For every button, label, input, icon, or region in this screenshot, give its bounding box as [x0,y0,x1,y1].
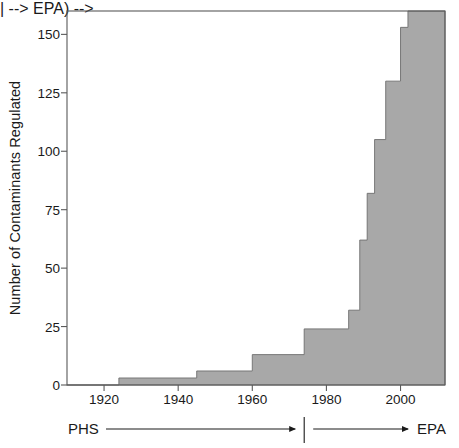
chart-figure: Number of Contaminants Regulated 0255075… [0,0,459,448]
plot-area [0,0,459,400]
x-axis-tick-labels: 19201940196019802000 [0,392,459,412]
x-axis-tick-label: 1980 [296,392,356,407]
x-axis-tick-label: 1920 [74,392,134,407]
x-axis-tick-label: 1960 [222,392,282,407]
x-axis-tick-label: 2000 [371,392,431,407]
era-annotation-row: PHS EPA [0,414,459,448]
era-label-phs: PHS [68,420,99,437]
era-label-epa: EPA [417,420,446,437]
x-axis-tick-label: 1940 [148,392,208,407]
step-area-series [67,11,445,385]
